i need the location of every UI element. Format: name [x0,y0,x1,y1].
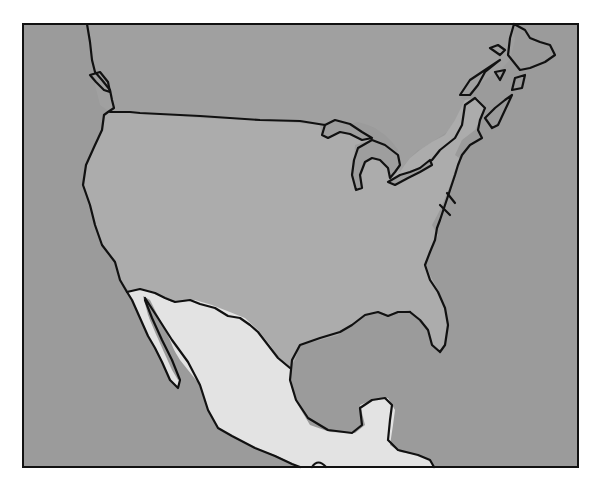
north-america-map [0,0,595,489]
